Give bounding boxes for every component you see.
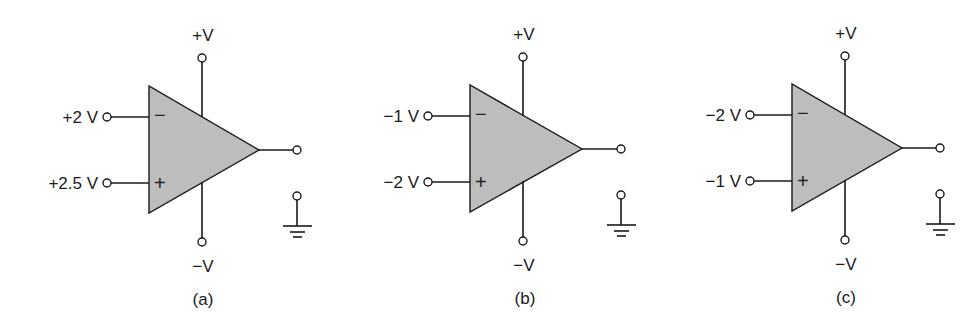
noninverting-sign: +: [797, 170, 809, 192]
ground-icon: [926, 190, 955, 235]
negative-supply-terminal: [841, 236, 849, 244]
noninverting-sign: +: [154, 172, 166, 194]
caption: (a): [193, 290, 214, 309]
inverting-sign: −: [475, 103, 487, 125]
inverting-input-label: −1 V: [384, 107, 420, 126]
opamp-comparator-figure: − + +2 V +2.5 V +V −V (a): [0, 0, 974, 332]
inverting-input-terminal: [103, 113, 111, 121]
negative-supply-label: −V: [513, 256, 535, 275]
circuit-b: − + −1 V −2 V +V −V (b): [384, 25, 636, 308]
noninverting-input-terminal: [103, 179, 111, 187]
positive-supply-terminal: [198, 54, 206, 62]
ground-icon: [283, 192, 312, 237]
output-terminal: [293, 146, 301, 154]
noninverting-input-terminal: [746, 177, 754, 185]
positive-supply-label: +V: [192, 26, 214, 45]
circuit-c: − + −2 V −1 V +V −V (c): [706, 24, 955, 307]
circuit-a: − + +2 V +2.5 V +V −V (a): [48, 26, 312, 309]
inverting-input-label: +2 V: [63, 108, 99, 127]
negative-supply-label: −V: [192, 257, 214, 276]
positive-supply-terminal: [519, 53, 527, 61]
ground-icon: [607, 191, 636, 236]
negative-supply-terminal: [519, 237, 527, 245]
positive-supply-label: +V: [513, 25, 535, 44]
caption: (c): [836, 288, 856, 307]
positive-supply-terminal: [841, 52, 849, 60]
output-terminal: [617, 145, 625, 153]
output-terminal: [936, 144, 944, 152]
noninverting-input-terminal: [424, 178, 432, 186]
inverting-sign: −: [154, 104, 166, 126]
inverting-sign: −: [797, 102, 809, 124]
inverting-input-terminal: [746, 111, 754, 119]
noninverting-input-label: +2.5 V: [48, 174, 98, 193]
caption: (b): [515, 289, 536, 308]
noninverting-sign: +: [475, 171, 487, 193]
noninverting-input-label: −1 V: [706, 172, 742, 191]
noninverting-input-label: −2 V: [384, 173, 420, 192]
inverting-input-label: −2 V: [706, 106, 742, 125]
negative-supply-label: −V: [835, 255, 857, 274]
positive-supply-label: +V: [835, 24, 857, 43]
opamp-triangle: [470, 85, 582, 212]
inverting-input-terminal: [424, 112, 432, 120]
negative-supply-terminal: [198, 238, 206, 246]
